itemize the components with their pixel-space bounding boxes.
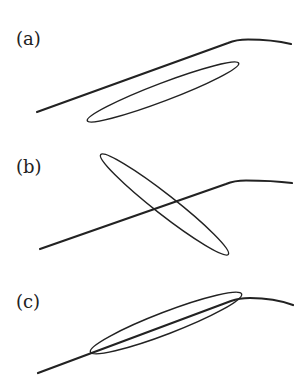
ellipse-curve-figure: (a) (b) (c) bbox=[0, 0, 308, 392]
ellipse-c bbox=[86, 284, 245, 363]
panel-label-c: (c) bbox=[16, 293, 40, 311]
panel-c bbox=[38, 284, 293, 373]
figure-canvas bbox=[0, 0, 308, 392]
panel-b bbox=[40, 147, 292, 262]
panel-label-a: (a) bbox=[16, 30, 41, 48]
panel-a bbox=[37, 40, 291, 130]
panel-label-b: (b) bbox=[16, 158, 42, 176]
curve-b bbox=[40, 181, 292, 250]
